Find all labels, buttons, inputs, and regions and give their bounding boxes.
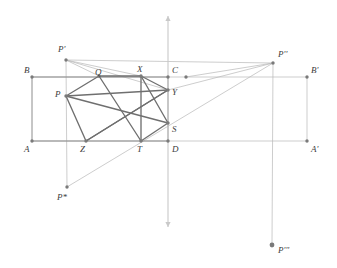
segment-P-Q <box>66 76 99 96</box>
vertex-dot-Ppp <box>271 61 274 64</box>
point-label-Q: Q <box>95 68 102 77</box>
point-label-A: A <box>24 145 30 154</box>
point-label-Pstar: P* <box>57 193 67 202</box>
point-label-T: T <box>137 145 142 154</box>
point-label-B: B <box>24 66 30 75</box>
vertex-dot-Pppp <box>270 243 275 248</box>
point-label-Y: Y <box>172 88 177 97</box>
point-label-Ppp: P'' <box>278 50 287 59</box>
vertex-dots-group <box>30 58 308 247</box>
vertex-dot-E <box>184 75 187 78</box>
point-label-Bq: B' <box>311 66 318 75</box>
segment-Ppp-Pppp-vertical <box>272 63 273 245</box>
segment-Q-T <box>99 76 141 141</box>
vertex-dot-C <box>166 75 169 78</box>
segment-Pp-Y <box>66 60 168 90</box>
segment-Ppp-Pstar <box>67 63 273 187</box>
segment-Z-P <box>66 96 86 141</box>
construction-lines-group <box>66 60 273 245</box>
vertex-dot-Pp <box>64 58 67 61</box>
vertex-dot-B <box>30 75 33 78</box>
vertex-dot-T <box>139 139 142 142</box>
point-label-Pppp: P''' <box>278 246 289 255</box>
axis-arrow-up-icon <box>165 16 170 21</box>
vertex-dot-S <box>166 121 169 124</box>
vertex-dot-A <box>30 139 33 142</box>
point-label-C: C <box>172 66 178 75</box>
vertex-dot-Bq <box>305 75 308 78</box>
point-label-Aq: A' <box>311 145 318 154</box>
point-label-Pp: P' <box>58 45 65 54</box>
point-label-S: S <box>172 125 177 134</box>
vertex-dot-Aq <box>305 139 308 142</box>
axis-arrow-down-icon <box>165 222 170 227</box>
vertex-dot-D <box>166 139 169 142</box>
point-label-P: P <box>55 90 61 99</box>
geometry-figure: ABCDA'B'PQXYSTZP'P''P*P''' <box>0 0 337 268</box>
segment-Pp-Ppp <box>66 60 273 63</box>
segment-S-T <box>141 123 168 141</box>
segment-Pp-X <box>66 60 141 76</box>
point-label-X: X <box>137 65 143 74</box>
segment-Ppp-Y <box>168 63 273 90</box>
point-label-Z: Z <box>80 145 85 154</box>
vertex-dot-Z <box>84 139 87 142</box>
vertex-dot-X <box>139 74 142 77</box>
vertex-dot-Pstar <box>65 185 68 188</box>
vertex-dot-P <box>64 94 67 97</box>
segment-Ppp-E <box>186 63 273 77</box>
geometry-canvas <box>0 0 337 268</box>
vertex-dot-Y <box>166 88 169 91</box>
rectangle-lines-group <box>32 77 307 141</box>
segment-Pp-Pstar-vertical <box>66 60 67 187</box>
point-label-D: D <box>172 145 179 154</box>
